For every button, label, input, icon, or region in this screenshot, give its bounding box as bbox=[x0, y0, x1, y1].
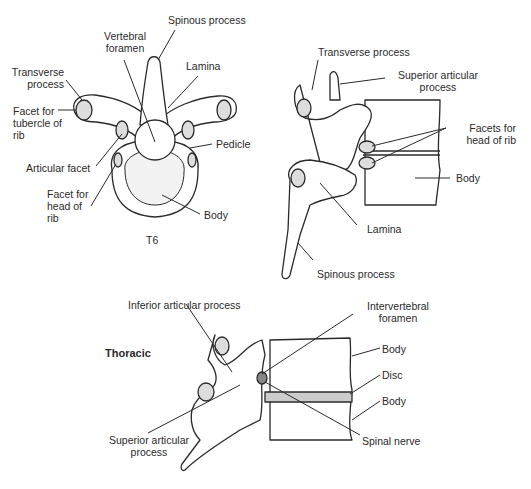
t6-superior-view bbox=[74, 57, 237, 217]
label-facet-head-rib: Facet for head of rib bbox=[47, 188, 88, 224]
label-line: tubercle of bbox=[13, 117, 62, 129]
label-lamina: Lamina bbox=[186, 60, 220, 72]
label-superior-articular-process: Superior articular process bbox=[390, 69, 486, 93]
label-line: process bbox=[10, 78, 64, 90]
label-line: process bbox=[100, 446, 198, 458]
label-line: Intervertebral bbox=[354, 300, 442, 312]
label-line: Superior articular bbox=[100, 434, 198, 446]
label-transverse-process-lateral: Transverse process bbox=[318, 46, 410, 58]
label-line: Transverse bbox=[10, 66, 64, 78]
label-superior-articular-process-bottom: Superior articular process bbox=[100, 434, 198, 458]
label-line: foramen bbox=[354, 312, 442, 324]
label-body-upper: Body bbox=[382, 343, 406, 355]
lateral-view-two-vertebrae bbox=[282, 72, 440, 279]
figure-title-thoracic: Thoracic bbox=[105, 347, 151, 359]
label-vertebral-foramen: Vertebral foramen bbox=[92, 30, 158, 54]
label-line: Facets for bbox=[450, 122, 516, 134]
label-spinous-process-lateral: Spinous process bbox=[317, 268, 395, 280]
label-intervertebral-foramen: Intervertebral foramen bbox=[354, 300, 442, 324]
label-line: Facet for bbox=[47, 188, 88, 200]
label-line: foramen bbox=[92, 42, 158, 54]
label-transverse-process: Transverse process bbox=[10, 66, 64, 90]
label-spinal-nerve: Spinal nerve bbox=[362, 435, 420, 447]
label-articular-facet: Articular facet bbox=[26, 162, 90, 174]
label-disc: Disc bbox=[382, 369, 402, 381]
label-line: Facet for bbox=[13, 105, 62, 117]
caption-t6: T6 bbox=[146, 234, 158, 246]
label-lamina-lateral: Lamina bbox=[367, 223, 401, 235]
label-body-lower: Body bbox=[382, 395, 406, 407]
label-line: process bbox=[390, 81, 486, 93]
label-line: head of bbox=[47, 200, 88, 212]
label-body: Body bbox=[204, 209, 228, 221]
label-line: rib bbox=[13, 129, 62, 141]
label-line: Superior articular bbox=[390, 69, 486, 81]
label-spinous-process: Spinous process bbox=[168, 14, 246, 26]
label-body-lateral: Body bbox=[456, 172, 480, 184]
label-inferior-articular-process: Inferior articular process bbox=[128, 299, 241, 311]
label-facet-tubercle-rib: Facet for tubercle of rib bbox=[13, 105, 62, 141]
label-pedicle: Pedicle bbox=[216, 138, 250, 150]
label-line: Vertebral bbox=[92, 30, 158, 42]
label-facets-head-rib: Facets for head of rib bbox=[450, 122, 516, 146]
label-line: rib bbox=[47, 212, 88, 224]
label-line: head of rib bbox=[450, 134, 516, 146]
